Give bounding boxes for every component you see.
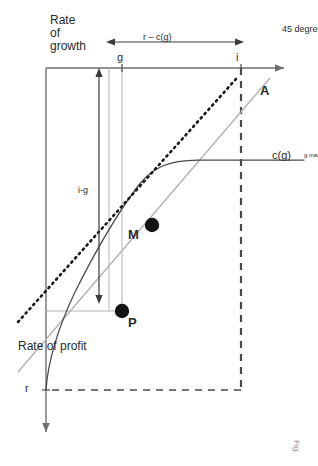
- label-45-degrees: 45 degrees: [282, 25, 318, 35]
- rotated-chart-container: Rate of growth Rate of profit i g r c(g)…: [0, 0, 318, 466]
- y-axis-label-text: Rate of growth: [50, 13, 86, 53]
- line-45-degrees: [18, 78, 270, 372]
- label-g-max: g max: [304, 152, 318, 158]
- point-label-a: A: [260, 84, 269, 98]
- x-tick-r: r: [25, 383, 29, 395]
- figure-canvas: Fig.: [0, 0, 318, 466]
- chart-svg: [0, 0, 318, 466]
- bracket-i-minus-g: [95, 68, 102, 304]
- curve-label-cg: c(g): [272, 150, 291, 162]
- y-axis: [46, 64, 284, 72]
- x-axis-label-text: Rate of profit: [18, 339, 87, 353]
- point-label-m: M: [128, 228, 139, 242]
- y-tick-g: g: [117, 52, 123, 64]
- point-marker-m: [145, 218, 159, 232]
- bracket-r-minus-cg: [106, 38, 244, 45]
- y-axis-label: Rate of growth: [50, 14, 86, 53]
- label-i-minus-g: i-g: [78, 186, 88, 196]
- point-label-p: P: [128, 316, 137, 330]
- label-r-minus-cg: r – c(g): [143, 33, 172, 43]
- y-tick-i: i: [236, 52, 238, 64]
- x-axis: [42, 68, 50, 432]
- x-axis-label: Rate of profit: [18, 340, 87, 353]
